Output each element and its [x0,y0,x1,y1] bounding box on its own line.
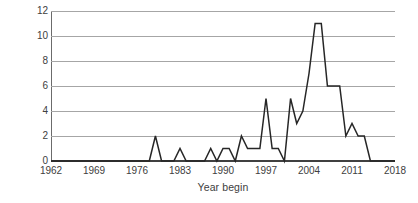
y-tick-label-12: 12 [28,6,48,16]
y-tick-label-10: 10 [28,31,48,41]
x-axis-title: Year begin [51,181,395,193]
x-tick-label-1976: 1976 [117,165,157,177]
x-tick-label-1969: 1969 [74,165,114,177]
data-series-line [51,11,395,161]
x-tick-label-2018: 2018 [375,165,415,177]
y-tick-label-2: 2 [28,131,48,141]
x-tick-label-1997: 1997 [246,165,286,177]
x-tick-label-1962: 1962 [31,165,71,177]
y-tick-label-8: 8 [28,56,48,66]
x-axis-tick-labels: 196219691976198319901997200420112018 [0,165,418,179]
mortgage-line-chart: Mortgage 024681012 196219691976198319901… [0,0,418,203]
x-tick-label-2011: 2011 [332,165,372,177]
y-tick-label-4: 4 [28,106,48,116]
x-tick-label-2004: 2004 [289,165,329,177]
x-tick-label-1983: 1983 [160,165,200,177]
x-tick-label-1990: 1990 [203,165,243,177]
plot-area [51,11,395,161]
y-tick-label-6: 6 [28,81,48,91]
